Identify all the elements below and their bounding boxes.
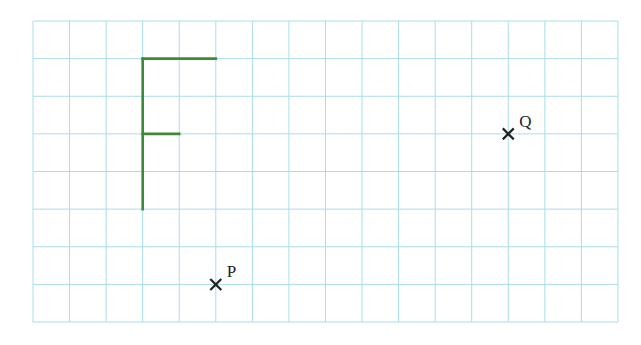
point-p-label: P bbox=[227, 262, 236, 281]
grid-diagram: Q P bbox=[0, 0, 641, 345]
point-q: Q bbox=[503, 112, 532, 140]
point-markers: Q P bbox=[210, 112, 531, 290]
point-p: P bbox=[210, 262, 236, 290]
point-q-label: Q bbox=[519, 112, 531, 131]
square-grid bbox=[33, 21, 618, 322]
